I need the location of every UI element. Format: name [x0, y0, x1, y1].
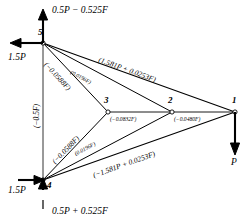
node-label-2: 2 — [168, 96, 173, 105]
node-label-5: 5 — [38, 28, 43, 37]
joint-3 — [106, 110, 110, 114]
joint-2 — [170, 110, 174, 114]
force-label-reaction-bottom-vertical: 0.5P + 0.525F — [52, 207, 108, 217]
force-label-applied-load: P — [231, 158, 237, 168]
force-label-reaction-bottom-horizontal: 1.5P — [8, 186, 26, 196]
arrow-head-reaction-top-horizontal — [10, 38, 21, 47]
node-label-1: 1 — [232, 96, 237, 105]
member-label-2-1: (−0.0480F) — [174, 117, 200, 123]
member-label-5-4: (−0.5F) — [33, 104, 41, 128]
force-label-reaction-top-vertical: 0.5P − 0.525F — [52, 6, 108, 16]
arrow-head-reaction-top-vertical — [38, 9, 47, 20]
node-label-4: 4 — [47, 181, 52, 190]
member-label-3-2: (−0.0832F) — [110, 117, 136, 123]
truss-force-diagram: 5 4 3 2 1 0.5P − 0.525F 1.5P 0.5P + 0.52… — [0, 0, 250, 223]
node-label-3: 3 — [104, 96, 109, 105]
force-label-reaction-top-horizontal: 1.5P — [8, 53, 26, 63]
arrow-head-applied-load — [230, 143, 239, 155]
